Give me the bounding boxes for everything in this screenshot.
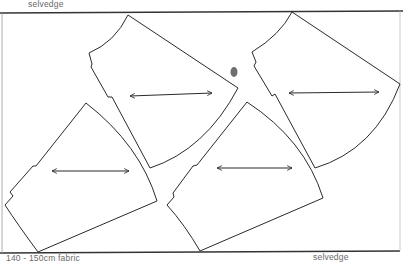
grainline-arrow: [289, 92, 379, 93]
pattern-piece-1: [89, 15, 238, 168]
top-selvedge-line: [0, 11, 403, 13]
pattern-piece-2: [252, 12, 400, 168]
grainline-arrow: [130, 93, 212, 96]
ink-blot: [231, 67, 238, 77]
fabric-frame: [0, 11, 403, 253]
pattern-layout-diagram: [0, 0, 403, 263]
pattern-piece-4: [167, 102, 323, 251]
pattern-piece-3: [5, 103, 157, 252]
